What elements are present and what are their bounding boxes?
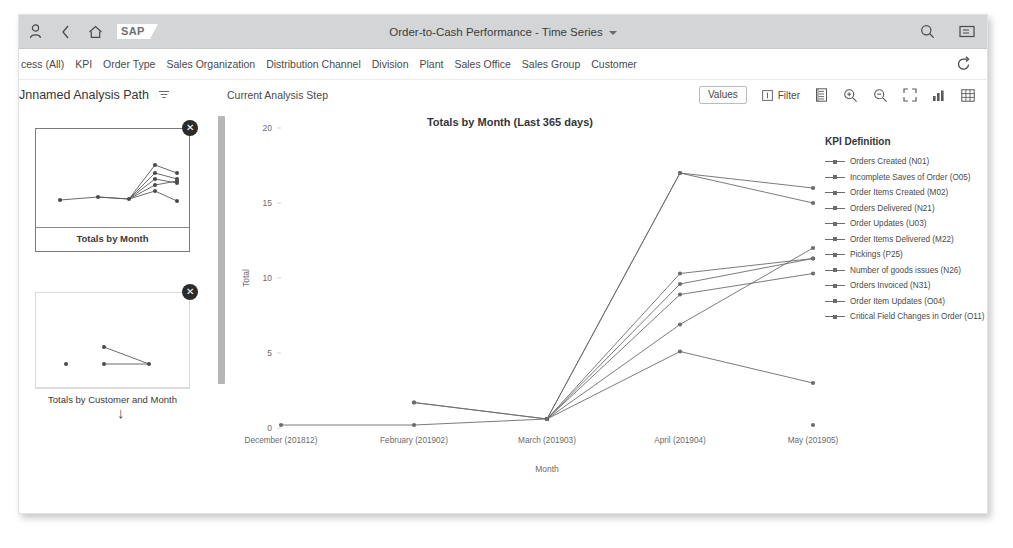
legend-item[interactable]: Order Items Created (M02) xyxy=(825,185,988,201)
legend-swatch-icon xyxy=(825,251,845,258)
x-axis-tick-label: December (201812) xyxy=(245,436,318,445)
legend-swatch-icon xyxy=(825,236,845,243)
legend-icon[interactable] xyxy=(815,88,828,102)
analysis-step-card-2[interactable]: ✕ Totals by Customer and Month xyxy=(35,292,190,412)
current-analysis-step-label: Current Analysis Step xyxy=(227,89,328,101)
chart-data-point[interactable] xyxy=(678,322,682,326)
legend-item-label: Order Items Created (M02) xyxy=(850,188,948,197)
zoom-in-icon[interactable] xyxy=(843,88,858,103)
chart-data-point[interactable] xyxy=(678,171,682,175)
filter-item-division[interactable]: Division xyxy=(372,58,409,70)
legend-item-label: Pickings (P25) xyxy=(850,250,903,259)
x-axis-tick-label: February (201902) xyxy=(380,436,448,445)
filter-item-process[interactable]: cess (All) xyxy=(21,58,64,70)
shell-title-group: Order-to-Cash Performance - Time Series xyxy=(19,15,987,48)
y-axis-title: Total xyxy=(241,269,251,287)
filter-item-order-type[interactable]: Order Type xyxy=(103,58,155,70)
analysis-toolbar: Jnnamed Analysis Path Current Analysis S… xyxy=(19,80,987,110)
chart-data-point[interactable] xyxy=(811,423,815,427)
filter-item-list: cess (All) KPI Order Type Sales Organiza… xyxy=(21,58,637,70)
legend-item[interactable]: Number of goods issues (N26) xyxy=(825,263,988,279)
legend-swatch-icon xyxy=(825,205,845,212)
thumbnail-chart-2 xyxy=(36,293,189,388)
legend-item[interactable]: Critical Field Changes in Order (O11) xyxy=(825,309,988,325)
table-view-icon[interactable] xyxy=(961,89,975,102)
legend-item-label: Orders Created (N01) xyxy=(850,157,929,166)
search-icon[interactable] xyxy=(919,23,936,40)
close-icon[interactable]: ✕ xyxy=(182,284,198,300)
legend-item[interactable]: Orders Created (N01) xyxy=(825,154,988,170)
y-axis-tick-label: 0 xyxy=(267,423,272,433)
filter-item-kpi[interactable]: KPI xyxy=(75,58,92,70)
chart-data-point[interactable] xyxy=(279,423,283,427)
back-chevron-icon[interactable] xyxy=(57,23,74,40)
chart-data-point[interactable] xyxy=(412,423,416,427)
analysis-path-group: Jnnamed Analysis Path xyxy=(19,87,173,104)
main-content: Totals by Month ✕ ↓ xyxy=(19,110,987,514)
filter-item-plant[interactable]: Plant xyxy=(420,58,444,70)
legend-item[interactable]: Order Item Updates (O04) xyxy=(825,294,988,310)
chart-data-point[interactable] xyxy=(811,381,815,385)
filter-item-distribution-channel[interactable]: Distribution Channel xyxy=(266,58,361,70)
user-icon[interactable] xyxy=(27,23,44,40)
x-axis-tick-label: April (201904) xyxy=(654,436,706,445)
page-title[interactable]: Order-to-Cash Performance - Time Series xyxy=(389,26,602,38)
filter-item-sales-organization[interactable]: Sales Organization xyxy=(166,58,255,70)
chart-legend: KPI Definition Orders Created (N01)Incom… xyxy=(825,136,988,325)
chart-data-point[interactable] xyxy=(545,417,549,421)
values-button[interactable]: Values xyxy=(699,86,747,104)
legend-swatch-icon xyxy=(825,189,845,196)
chevron-down-icon[interactable] xyxy=(609,31,617,35)
sidebar-scrollbar[interactable] xyxy=(218,116,225,384)
chart-data-point[interactable] xyxy=(811,246,815,250)
filter-item-sales-office[interactable]: Sales Office xyxy=(454,58,510,70)
analysis-step-card-1[interactable]: Totals by Month ✕ xyxy=(35,128,190,252)
screenshot-root: SAP Order-to-Cash Performance - Time Ser… xyxy=(0,0,1013,548)
chart-data-point[interactable] xyxy=(678,271,682,275)
legend-item-label: Order Updates (U03) xyxy=(850,219,926,228)
home-icon[interactable] xyxy=(87,23,104,40)
filter-button-label: Filter xyxy=(778,90,800,101)
legend-item[interactable]: Orders Invoiced (N31) xyxy=(825,278,988,294)
chart-type-icon[interactable] xyxy=(932,89,946,102)
legend-item[interactable]: Incomplete Saves of Order (O05) xyxy=(825,170,988,186)
y-axis-tick-label: 15 xyxy=(263,198,273,208)
chart-series-line[interactable] xyxy=(414,173,813,419)
legend-item-label: Incomplete Saves of Order (O05) xyxy=(850,173,971,182)
legend-swatch-icon xyxy=(825,313,845,320)
chart-data-point[interactable] xyxy=(811,271,815,275)
chart-panel: Totals by Month (Last 365 days) 05101520… xyxy=(233,110,987,514)
filter-item-customer[interactable]: Customer xyxy=(591,58,637,70)
legend-item[interactable]: Order Items Delivered (M22) xyxy=(825,232,988,248)
chart-data-point[interactable] xyxy=(811,201,815,205)
analysis-step-thumbnail-1[interactable]: Totals by Month ✕ xyxy=(35,128,190,252)
close-icon[interactable]: ✕ xyxy=(182,120,198,136)
legend-item-label: Critical Field Changes in Order (O11) xyxy=(850,312,985,321)
legend-title: KPI Definition xyxy=(825,136,988,147)
zoom-out-icon[interactable] xyxy=(873,88,888,103)
legend-item[interactable]: Orders Delivered (N21) xyxy=(825,201,988,217)
filter-button[interactable]: Filter xyxy=(762,90,800,101)
filter-menu-icon[interactable] xyxy=(156,87,173,104)
legend-swatch-icon xyxy=(825,298,845,305)
chart-data-point[interactable] xyxy=(412,400,416,404)
menu-icon[interactable] xyxy=(958,23,975,40)
refresh-icon[interactable] xyxy=(957,56,971,75)
chart-data-point[interactable] xyxy=(678,292,682,296)
filter-item-sales-group[interactable]: Sales Group xyxy=(522,58,580,70)
shell-header-right-group xyxy=(919,15,975,48)
analysis-path-title[interactable]: Jnnamed Analysis Path xyxy=(19,88,149,102)
chart-data-point[interactable] xyxy=(678,349,682,353)
legend-item[interactable]: Pickings (P25) xyxy=(825,247,988,263)
analysis-steps-sidebar: Totals by Month ✕ ↓ xyxy=(19,110,215,514)
legend-swatch-icon xyxy=(825,282,845,289)
chart-data-point[interactable] xyxy=(811,186,815,190)
analysis-step-thumbnail-2[interactable]: ✕ xyxy=(35,292,190,389)
analysis-step-label-2: Totals by Customer and Month xyxy=(35,389,190,412)
chart-series-line[interactable] xyxy=(547,352,813,420)
chart-data-point[interactable] xyxy=(811,256,815,260)
chart-data-point[interactable] xyxy=(678,282,682,286)
legend-item[interactable]: Order Updates (U03) xyxy=(825,216,988,232)
sap-logo[interactable]: SAP xyxy=(117,24,150,39)
fullscreen-icon[interactable] xyxy=(903,88,917,102)
